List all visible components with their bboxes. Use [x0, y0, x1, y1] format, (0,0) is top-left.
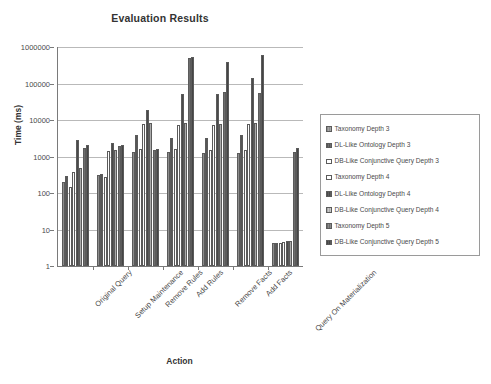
chart-container: Evaluation Results Time (ms) 10000001000…	[0, 0, 491, 384]
bar[interactable]	[226, 62, 229, 266]
x-axis-category-label: Original Query	[93, 268, 134, 309]
y-axis-tick-mark	[50, 193, 54, 194]
legend-swatch-icon	[326, 126, 332, 132]
y-axis-tick-label: 10000	[29, 116, 50, 125]
y-axis-tick-label: 100000	[25, 79, 50, 88]
legend-item[interactable]: DB-Like Conjunctive Query Depth 5	[326, 234, 475, 250]
y-axis-tick-label: 100	[37, 189, 50, 198]
legend-label: Taxonomy Depth 5	[335, 223, 390, 230]
legend-label: DL-Like Ontology Depth 4	[335, 191, 411, 198]
legend-swatch-icon	[326, 191, 332, 197]
bar-group	[163, 47, 198, 266]
bar[interactable]	[121, 145, 124, 266]
chart-legend: Taxonomy Depth 3DL-Like Ontology Depth 3…	[320, 114, 480, 256]
x-axis-category-label: Query On Materialization	[313, 268, 378, 333]
chart-title: Evaluation Results	[0, 12, 320, 24]
y-axis-tick-mark	[50, 266, 54, 267]
bar-group	[198, 47, 233, 266]
legend-swatch-icon	[326, 207, 332, 213]
legend-item[interactable]: Taxonomy Depth 5	[326, 218, 475, 234]
legend-label: DB-Like Conjunctive Query Depth 5	[335, 239, 439, 246]
legend-swatch-icon	[326, 175, 332, 181]
y-axis-tick-mark	[50, 230, 54, 231]
legend-item[interactable]: Taxonomy Depth 3	[326, 121, 475, 137]
bar[interactable]	[191, 57, 194, 266]
bar-group	[233, 47, 268, 266]
bar-group	[128, 47, 163, 266]
bar[interactable]	[86, 145, 89, 266]
bar-group	[268, 47, 303, 266]
bar-group	[58, 47, 93, 266]
y-axis-tick-label: 1000	[33, 152, 50, 161]
y-axis-tick-mark	[50, 47, 54, 48]
y-axis-tick-mark	[50, 120, 54, 121]
legend-item[interactable]: DL-Like Ontology Depth 3	[326, 137, 475, 153]
legend-item[interactable]: DL-Like Ontology Depth 4	[326, 186, 475, 202]
legend-swatch-icon	[326, 240, 332, 246]
legend-label: DL-Like Ontology Depth 3	[335, 142, 411, 149]
bar[interactable]	[296, 148, 299, 266]
y-axis-tick-mark	[50, 84, 54, 85]
y-axis-tick-mark	[50, 157, 54, 158]
bar[interactable]	[156, 149, 159, 266]
legend-swatch-icon	[326, 159, 332, 165]
legend-swatch-icon	[326, 143, 332, 149]
legend-item[interactable]: Taxonomy Depth 4	[326, 170, 475, 186]
legend-item[interactable]: DB-Like Conjunctive Query Depth 3	[326, 153, 475, 169]
legend-item[interactable]: DB-Like Conjunctive Query Depth 4	[326, 202, 475, 218]
plot-area	[57, 47, 303, 267]
y-axis-tick-label: 10	[42, 225, 50, 234]
bar[interactable]	[261, 55, 264, 266]
x-axis-title: Action	[57, 356, 302, 366]
legend-label: Taxonomy Depth 4	[335, 174, 390, 181]
bar-group	[93, 47, 128, 266]
x-axis-category-labels: Original QuerySetup MaintenanceRemove Ru…	[57, 268, 302, 348]
y-axis-ticks: 1000000100000100001000100101	[0, 47, 50, 266]
legend-label: DB-Like Conjunctive Query Depth 4	[335, 207, 439, 214]
legend-label: Taxonomy Depth 3	[335, 126, 390, 133]
legend-label: DB-Like Conjunctive Query Depth 3	[335, 158, 439, 165]
y-axis-tick-label: 1000000	[21, 43, 50, 52]
legend-swatch-icon	[326, 223, 332, 229]
